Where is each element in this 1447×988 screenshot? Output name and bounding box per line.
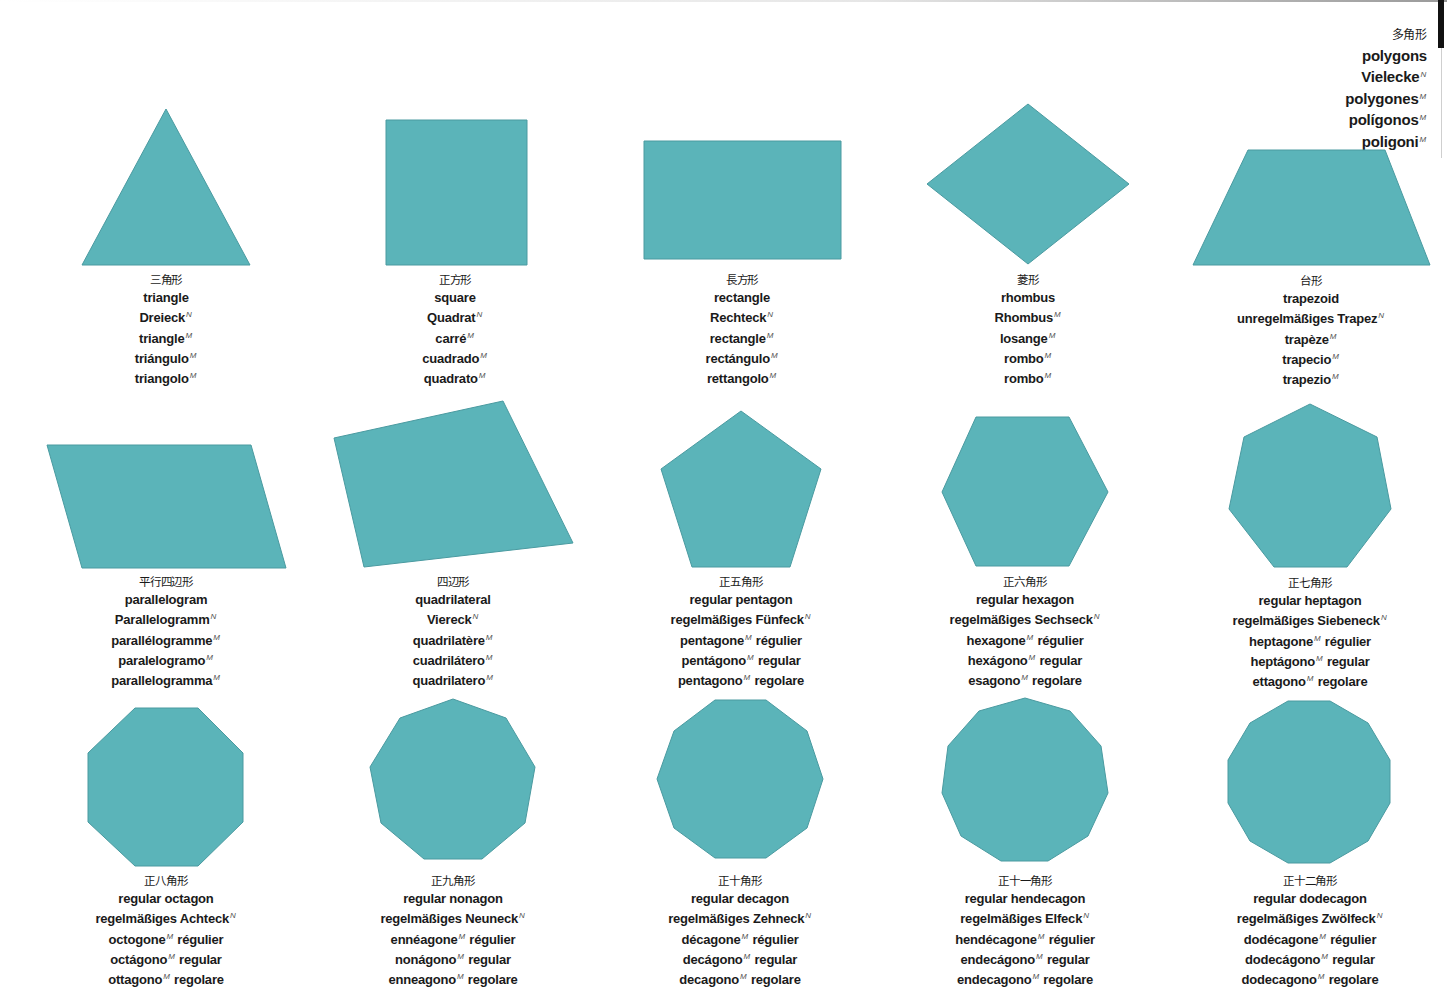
term-line: endecágonoM regular xyxy=(955,948,1095,968)
gender-marker: N xyxy=(519,911,525,920)
japanese-term: 正十角形 xyxy=(668,873,812,890)
term-text: endecagono xyxy=(957,972,1032,987)
term-line: quadrilatèreM xyxy=(412,629,493,649)
gender-marker: M xyxy=(1036,952,1042,961)
term-text: esagono xyxy=(968,673,1020,688)
japanese-term: 正十二角形 xyxy=(1237,873,1383,890)
gender-marker: M xyxy=(486,653,492,662)
triangle-shape xyxy=(82,109,250,265)
japanese-term: 平行四辺形 xyxy=(111,574,221,591)
gender-marker: M xyxy=(770,371,776,380)
term-line: dodécagoneM régulier xyxy=(1237,928,1383,948)
term-text: regelmäßiges Zwölfeck xyxy=(1237,911,1376,926)
term-text: regular decagon xyxy=(691,891,789,906)
gender-marker: M xyxy=(1319,932,1325,941)
term-text: trapecio xyxy=(1282,352,1331,367)
gender-marker: M xyxy=(458,932,464,941)
gender-marker: N xyxy=(1378,311,1384,320)
term-line: rectánguloM xyxy=(706,347,779,367)
term-text: 台形 xyxy=(1300,274,1322,288)
gender-marker: M xyxy=(1021,673,1027,682)
japanese-term: 台形 xyxy=(1237,273,1385,290)
term-text: regelmäßiges Achteck xyxy=(95,911,229,926)
regular-heptagon-caption: 正七角形regular heptagonregelmäßiges Siebene… xyxy=(1233,575,1388,690)
rhombus-caption: 菱形rhombusRhombusMlosangeMromboMromboM xyxy=(994,272,1061,387)
term-suffix: régulier xyxy=(749,932,799,947)
term-text: paralelogramo xyxy=(118,653,205,668)
japanese-term: 正八角形 xyxy=(95,873,236,890)
regular-hexagon-shape xyxy=(942,417,1108,566)
term-line: quadratoM xyxy=(422,367,487,387)
term-line: regular hendecagon xyxy=(955,890,1095,907)
gender-marker: M xyxy=(457,952,463,961)
gender-marker: M xyxy=(213,633,219,642)
term-line: ettagonoM regolare xyxy=(1233,670,1388,690)
term-text: quadrilatero xyxy=(412,673,485,688)
term-line: heptagoneM régulier xyxy=(1233,630,1388,650)
regular-hexagon-caption: 正六角形regular hexagonregelmäßiges Sechseck… xyxy=(950,574,1101,689)
term-text: regelmäßiges Neuneck xyxy=(380,911,518,926)
term-line: DreieckN xyxy=(135,306,197,326)
term-text: cuadrilátero xyxy=(413,653,485,668)
term-line: carréM xyxy=(422,327,487,347)
term-text: trapèze xyxy=(1285,332,1329,347)
term-line: octogoneM régulier xyxy=(95,928,236,948)
term-text: decágono xyxy=(683,952,743,967)
regular-heptagon-shape xyxy=(1229,404,1391,567)
term-suffix: regular xyxy=(751,952,797,967)
term-text: 正十一角形 xyxy=(998,874,1052,888)
regular-pentagon-caption: 正五角形regular pentagonregelmäßiges Fünfeck… xyxy=(671,574,812,689)
term-text: endecágono xyxy=(960,952,1035,967)
term-text: trapezoid xyxy=(1283,291,1339,306)
term-line: quadrilateroM xyxy=(412,669,493,689)
term-text: parallélogramme xyxy=(111,633,212,648)
term-text: Dreieck xyxy=(139,310,185,325)
term-line: regelmäßiges ElfeckN xyxy=(955,907,1095,927)
term-text: triangolo xyxy=(135,371,189,386)
term-text: Parallelogramm xyxy=(115,612,210,627)
gender-marker: M xyxy=(1318,972,1324,981)
term-line: triangle xyxy=(135,289,197,306)
regular-dodecagon-shape xyxy=(1228,701,1390,863)
term-text: 正方形 xyxy=(439,273,471,287)
term-line: QuadratN xyxy=(422,306,487,326)
term-suffix: régulier xyxy=(752,633,802,648)
term-suffix: regular xyxy=(755,653,801,668)
term-line: regelmäßiges AchteckN xyxy=(95,907,236,927)
term-text: regelmäßiges Sechseck xyxy=(950,612,1093,627)
parallelogram-caption: 平行四辺形parallelogramParallelogrammNparallé… xyxy=(111,574,221,689)
term-line: esagonoM regolare xyxy=(950,669,1101,689)
term-text: pentagono xyxy=(678,673,743,688)
term-text: regular dodecagon xyxy=(1253,891,1367,906)
term-line: hexágonoM regular xyxy=(950,649,1101,669)
term-line: regelmäßiges SiebeneckN xyxy=(1233,609,1388,629)
term-text: ettagono xyxy=(1253,674,1306,689)
japanese-term: 三角形 xyxy=(135,272,197,289)
term-text: regular pentagon xyxy=(690,592,793,607)
japanese-term: 正六角形 xyxy=(950,574,1101,591)
regular-octagon-caption: 正八角形regular octagonregelmäßiges AchteckN… xyxy=(95,873,236,988)
term-line: square xyxy=(422,289,487,306)
gender-marker: M xyxy=(467,331,473,340)
term-text: 正九角形 xyxy=(431,874,474,888)
term-line: enneagonoM regolare xyxy=(380,968,525,988)
term-line: rectangleM xyxy=(706,327,779,347)
term-suffix: regolare xyxy=(464,972,517,987)
gender-marker: M xyxy=(486,673,492,682)
term-line: regular hexagon xyxy=(950,591,1101,608)
term-line: quadrilateral xyxy=(412,591,493,608)
term-suffix: regular xyxy=(1036,653,1082,668)
gender-marker: M xyxy=(744,673,750,682)
term-line: romboM xyxy=(994,367,1061,387)
term-line: losangeM xyxy=(994,327,1061,347)
term-line: paralelogramoM xyxy=(111,649,221,669)
term-line: ViereckN xyxy=(412,608,493,628)
term-suffix: régulier xyxy=(174,932,224,947)
term-line: regelmäßiges ZehneckN xyxy=(668,907,812,927)
gender-marker: M xyxy=(740,972,746,981)
gender-marker: M xyxy=(745,633,751,642)
term-line: RechteckN xyxy=(706,306,779,326)
gender-marker: M xyxy=(1314,634,1320,643)
gender-marker: M xyxy=(1044,371,1050,380)
term-line: regular heptagon xyxy=(1233,592,1388,609)
